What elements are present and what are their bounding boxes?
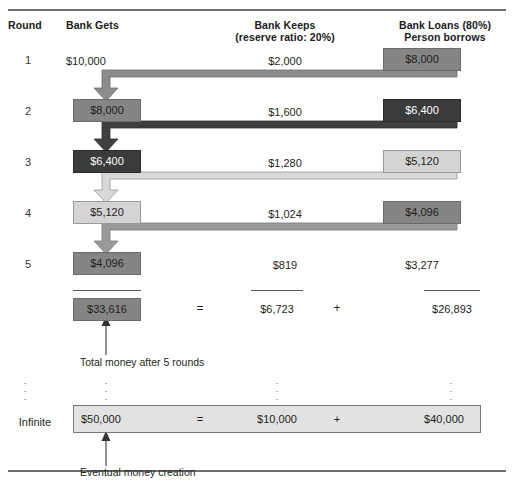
- cell-gets-1: $10,000: [66, 54, 176, 68]
- column-header-bank-gets: Bank Gets: [66, 19, 176, 31]
- round-label-1: 1: [8, 54, 48, 66]
- flow-arrow-4-to-5: [94, 219, 457, 254]
- total-keeps: $6,723: [245, 302, 309, 316]
- flow-arrow-2-to-3: [94, 117, 457, 152]
- column-header-bank-loans-line1: Bank Loans (80%): [376, 19, 514, 31]
- column-header-bank-loans: Bank Loans (80%) Person borrows: [376, 19, 514, 43]
- column-header-bank-keeps: Bank Keeps (reserve ratio: 20%): [206, 19, 364, 43]
- callout-arrow-totals: [102, 316, 111, 355]
- cell-keeps-2: $1,600: [206, 105, 364, 119]
- callout-arrow-infinite: [102, 431, 111, 466]
- ellipsis-dot: .: [20, 393, 30, 401]
- sum-underline-keeps: [251, 290, 303, 291]
- total-loans: $26,893: [420, 302, 484, 316]
- cell-loans-4-box: $4,096: [383, 201, 461, 224]
- ellipsis-dot: .: [272, 393, 282, 401]
- round-label-2: 2: [8, 105, 48, 117]
- column-header-bank-keeps-line2: (reserve ratio: 20%): [206, 31, 364, 43]
- round-label-3: 3: [8, 156, 48, 168]
- ellipsis-gets-column: . . .: [101, 377, 111, 401]
- cell-gets-3-box: $6,400: [73, 150, 141, 173]
- flow-arrow-3-to-4: [94, 168, 457, 203]
- cell-gets-5-box: $4,096: [73, 252, 141, 275]
- cell-loans-2-box: $6,400: [383, 99, 461, 122]
- cell-keeps-5: $819: [206, 258, 364, 272]
- operator-equals-infinite: =: [185, 405, 215, 433]
- column-header-bank-loans-line2: Person borrows: [376, 31, 514, 43]
- ellipsis-round-column: . . .: [20, 377, 30, 401]
- ellipsis-dot: .: [101, 393, 111, 401]
- flow-arrow-1-to-2: [94, 66, 457, 101]
- operator-plus-totals: +: [322, 301, 352, 315]
- cell-loans-1-box: $8,000: [383, 48, 461, 71]
- column-header-bank-keeps-line1: Bank Keeps: [206, 19, 364, 31]
- cell-keeps-3: $1,280: [206, 156, 364, 170]
- infinite-keeps: $10,000: [245, 405, 309, 433]
- callout-eventual-money-creation: Eventual money creation: [80, 466, 196, 478]
- cell-gets-2-box: $8,000: [73, 99, 141, 122]
- round-label-5: 5: [8, 258, 48, 270]
- callout-total-money-after-5-rounds: Total money after 5 rounds: [80, 356, 204, 368]
- cell-loans-3-box: $5,120: [383, 150, 461, 173]
- cell-keeps-4: $1,024: [206, 207, 364, 221]
- sum-underline-gets: [73, 290, 141, 291]
- infinite-loans: $40,000: [412, 405, 476, 433]
- ellipsis-keeps-column: . . .: [272, 377, 282, 401]
- column-header-round: Round: [8, 19, 64, 31]
- operator-plus-infinite: +: [322, 405, 352, 433]
- sum-underline-loans: [424, 290, 480, 291]
- round-label-4: 4: [8, 207, 48, 219]
- top-divider-rule: [8, 9, 506, 11]
- round-label-infinite: Infinite: [4, 415, 66, 429]
- money-multiplier-diagram: Round Bank Gets Bank Keeps (reserve rati…: [0, 0, 514, 494]
- ellipsis-loans-column: . . .: [446, 377, 456, 401]
- cell-keeps-1: $2,000: [206, 54, 364, 68]
- operator-equals-totals: =: [185, 301, 215, 315]
- total-gets-box: $33,616: [73, 298, 141, 321]
- infinite-gets: $50,000: [81, 405, 171, 433]
- ellipsis-dot: .: [446, 393, 456, 401]
- cell-loans-5: $3,277: [383, 258, 461, 272]
- cell-gets-4-box: $5,120: [73, 201, 141, 224]
